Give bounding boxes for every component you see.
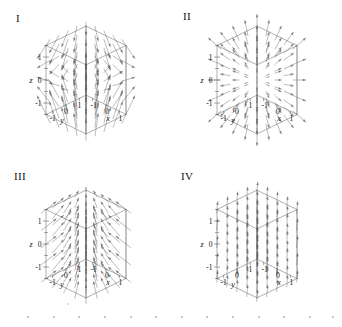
svg-text:z: z (28, 76, 33, 85)
svg-text:y: y (59, 116, 64, 125)
svg-text:1: 1 (209, 53, 213, 62)
vector-field-plot-I: 10-1z-101y10-1x (0, 0, 171, 163)
svg-text:-1: -1 (50, 114, 57, 123)
figure-vector-fields: I 10-1z-101y10-1x II 10-1z-101y10-1x III… (0, 0, 342, 327)
svg-text:1: 1 (38, 53, 42, 62)
panel-label-I: I (16, 12, 20, 24)
svg-text:1: 1 (118, 114, 122, 123)
svg-text:y: y (59, 280, 64, 289)
svg-text:1: 1 (289, 278, 293, 287)
svg-text:-1: -1 (206, 263, 213, 272)
svg-text:-1: -1 (35, 99, 42, 108)
panel-I: I 10-1z-101y10-1x (0, 0, 171, 163)
svg-text:0: 0 (64, 107, 68, 116)
svg-text:1: 1 (118, 278, 122, 287)
panel-label-IV: IV (181, 170, 193, 182)
svg-text:x: x (105, 114, 110, 123)
svg-text:0: 0 (64, 271, 68, 280)
svg-text:0: 0 (235, 271, 239, 280)
axis-box: 10-1z-101y10-1x (28, 26, 126, 134)
svg-text:z: z (199, 76, 204, 85)
svg-text:z: z (199, 240, 204, 249)
svg-text:y: y (230, 116, 235, 125)
svg-text:-1: -1 (35, 263, 42, 272)
svg-text:-1: -1 (221, 114, 228, 123)
svg-text:1: 1 (77, 101, 81, 110)
page-artifact-dots (0, 302, 342, 327)
svg-text:x: x (105, 278, 110, 287)
svg-text:1: 1 (209, 217, 213, 226)
svg-text:x: x (276, 114, 281, 123)
panel-II: II 10-1z-101y10-1x (171, 0, 342, 163)
svg-text:0: 0 (235, 107, 239, 116)
svg-text:1: 1 (248, 101, 252, 110)
svg-text:1: 1 (289, 114, 293, 123)
svg-text:-1: -1 (91, 101, 98, 110)
svg-text:x: x (276, 278, 281, 287)
svg-text:y: y (230, 280, 235, 289)
svg-text:1: 1 (77, 265, 81, 274)
svg-text:-1: -1 (91, 265, 98, 274)
svg-text:-1: -1 (262, 265, 269, 274)
svg-text:-1: -1 (262, 101, 269, 110)
vector-field-plot-II: 10-1z-101y10-1x (171, 0, 342, 163)
svg-text:1: 1 (38, 217, 42, 226)
svg-text:0: 0 (209, 240, 213, 249)
svg-text:-1: -1 (206, 99, 213, 108)
panel-label-III: III (14, 170, 26, 182)
svg-text:-1: -1 (50, 278, 57, 287)
svg-text:0: 0 (209, 76, 213, 85)
panel-label-II: II (183, 10, 191, 22)
svg-text:0: 0 (38, 240, 42, 249)
svg-text:z: z (28, 240, 33, 249)
svg-text:-1: -1 (221, 278, 228, 287)
svg-text:1: 1 (248, 265, 252, 274)
svg-text:0: 0 (38, 76, 42, 85)
